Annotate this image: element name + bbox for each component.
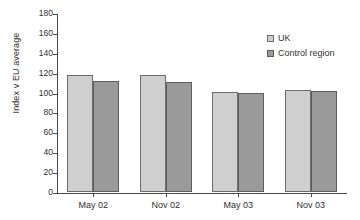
x-axis-tick-label: May 02 xyxy=(63,200,123,210)
y-axis-tick-label: 60 xyxy=(44,127,53,137)
y-axis-line xyxy=(57,14,58,193)
x-axis-tick-mark xyxy=(93,193,94,197)
legend-item-control-region: Control region xyxy=(267,48,335,58)
y-axis-tick-label: 140 xyxy=(39,48,53,58)
y-axis-tick-label: 80 xyxy=(44,107,53,117)
x-axis-line xyxy=(57,193,347,194)
x-axis-tick-label: Nov 02 xyxy=(136,200,196,210)
y-axis-tick-mark xyxy=(53,34,57,35)
bar-control-1 xyxy=(166,82,192,192)
bar-group xyxy=(67,13,119,192)
y-axis-tick-label: 100 xyxy=(39,88,53,98)
bar-control-3 xyxy=(311,91,337,192)
y-axis-tick-label: 160 xyxy=(39,28,53,38)
y-axis-tick-label: 180 xyxy=(39,8,53,18)
bar-control-2 xyxy=(238,93,264,192)
bar-uk-0 xyxy=(67,75,93,192)
y-axis-tick-mark xyxy=(53,173,57,174)
y-axis-tick-mark xyxy=(53,153,57,154)
y-axis-tick-label: 20 xyxy=(44,167,53,177)
y-axis-tick-mark xyxy=(53,193,57,194)
y-axis-tick-mark xyxy=(53,74,57,75)
y-axis-tick-mark xyxy=(53,113,57,114)
x-axis-tick-label: May 03 xyxy=(208,200,268,210)
legend-label: UK xyxy=(278,33,291,43)
bar-control-0 xyxy=(93,81,119,192)
y-axis-tick-mark xyxy=(53,14,57,15)
x-axis-tick-mark xyxy=(311,193,312,197)
y-axis-tick-label: 120 xyxy=(39,68,53,78)
y-axis-tick-mark xyxy=(53,54,57,55)
chart-legend: UKControl region xyxy=(267,33,335,63)
legend-item-uk: UK xyxy=(267,33,335,43)
bar-uk-1 xyxy=(140,75,166,192)
y-axis-tick-mark xyxy=(53,94,57,95)
bar-group xyxy=(212,13,264,192)
y-axis-title: Index v EU average xyxy=(11,13,21,133)
y-axis-tick-mark xyxy=(53,133,57,134)
bar-chart: Index v EU average 020406080100120140160… xyxy=(0,0,360,220)
bar-group xyxy=(140,13,192,192)
legend-swatch-icon xyxy=(267,35,274,42)
bar-uk-2 xyxy=(212,92,238,192)
x-axis-tick-label: Nov 03 xyxy=(281,200,341,210)
x-axis-tick-mark xyxy=(238,193,239,197)
legend-label: Control region xyxy=(278,48,335,58)
bar-uk-3 xyxy=(285,90,311,192)
legend-swatch-icon xyxy=(267,50,274,57)
x-axis-tick-mark xyxy=(166,193,167,197)
y-axis-tick-label: 0 xyxy=(48,187,53,197)
y-axis-tick-label: 40 xyxy=(44,147,53,157)
